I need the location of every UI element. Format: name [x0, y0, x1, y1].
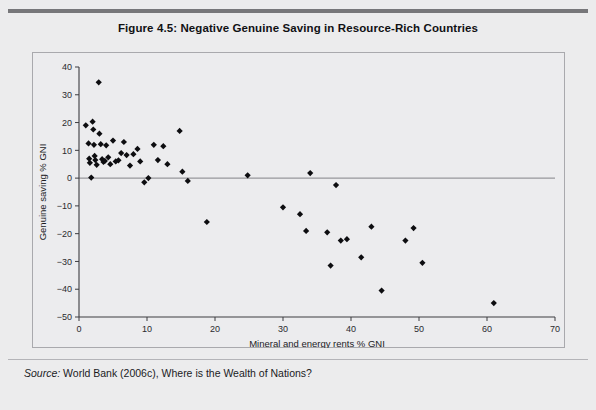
data-point — [164, 161, 170, 167]
data-point — [87, 160, 93, 166]
data-point — [338, 238, 344, 244]
data-point — [358, 254, 364, 260]
data-point — [145, 175, 151, 181]
data-point — [333, 182, 339, 188]
source-caption: Source: World Bank (2006c), Where is the… — [24, 367, 312, 379]
data-point — [110, 138, 116, 144]
source-text: World Bank (2006c), Where is the Wealth … — [60, 367, 312, 379]
y-tick-label: 30 — [62, 90, 72, 100]
data-point — [419, 260, 425, 266]
data-point — [185, 178, 191, 184]
y-tick-label: −20 — [57, 229, 72, 239]
data-point — [368, 224, 374, 230]
x-tick-label: 50 — [414, 324, 424, 334]
data-point — [121, 139, 127, 145]
data-point — [328, 263, 334, 269]
data-point — [96, 131, 102, 137]
data-point — [91, 142, 97, 148]
data-point — [88, 174, 94, 180]
data-point — [177, 128, 183, 134]
y-tick-label: 20 — [62, 118, 72, 128]
x-tick-label: 20 — [210, 324, 220, 334]
data-point — [137, 158, 143, 164]
y-tick-label: 10 — [62, 146, 72, 156]
source-label: Source: — [24, 367, 60, 379]
data-point — [103, 142, 109, 148]
data-point — [160, 143, 166, 149]
data-point — [96, 79, 102, 85]
data-point — [98, 141, 104, 147]
data-point — [179, 169, 185, 175]
data-point — [307, 170, 313, 176]
x-tick-label: 70 — [550, 324, 560, 334]
data-point — [491, 300, 497, 306]
data-point — [151, 142, 157, 148]
data-point — [118, 150, 124, 156]
y-tick-label: −10 — [57, 201, 72, 211]
data-point — [204, 219, 210, 225]
data-point — [155, 157, 161, 163]
data-point — [141, 179, 147, 185]
page-title: Figure 4.5: Negative Genuine Saving in R… — [0, 22, 596, 34]
data-point — [92, 157, 98, 163]
scatter-chart: −50−40−30−20−10010203040010203040506070M… — [32, 52, 565, 348]
data-point — [324, 229, 330, 235]
y-tick-label: −40 — [57, 284, 72, 294]
y-tick-label: 0 — [67, 173, 72, 183]
y-axis-title: Genuine saving % GNI — [37, 144, 48, 241]
top-rule-divider — [8, 9, 588, 13]
x-tick-label: 40 — [346, 324, 356, 334]
x-axis-title: Mineral and energy rents % GNI — [249, 338, 385, 348]
data-point — [90, 119, 96, 125]
data-point — [245, 172, 251, 178]
data-point — [124, 152, 130, 158]
y-tick-label: −50 — [57, 312, 72, 322]
data-point — [85, 140, 91, 146]
x-tick-label: 60 — [482, 324, 492, 334]
x-tick-label: 10 — [142, 324, 152, 334]
data-point — [127, 163, 133, 169]
data-point — [402, 238, 408, 244]
data-point — [410, 225, 416, 231]
x-tick-label: 30 — [278, 324, 288, 334]
x-tick-label: 0 — [76, 324, 81, 334]
figure-page: Figure 4.5: Negative Genuine Saving in R… — [0, 0, 596, 410]
source-divider — [8, 359, 588, 360]
data-point — [107, 161, 113, 167]
data-point — [303, 228, 309, 234]
data-point — [379, 288, 385, 294]
data-point — [134, 146, 140, 152]
data-point — [130, 151, 136, 157]
data-point — [90, 126, 96, 132]
data-point — [83, 122, 89, 128]
y-tick-label: −30 — [57, 257, 72, 267]
y-tick-label: 40 — [62, 62, 72, 72]
data-point — [344, 236, 350, 242]
data-point — [297, 211, 303, 217]
data-point — [94, 162, 100, 168]
data-point — [280, 204, 286, 210]
